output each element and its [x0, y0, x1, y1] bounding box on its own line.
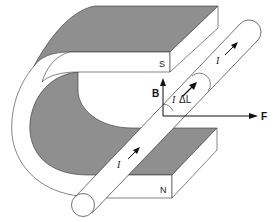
field-label: B: [152, 88, 159, 99]
segment-length-label: ΔL: [179, 94, 192, 105]
magnet-wire-diagram: I I B F I ΔL S N: [0, 0, 275, 222]
north-pole-label: N: [160, 185, 167, 195]
current-label-bottom: I: [116, 159, 121, 170]
current-label-top: I: [215, 55, 220, 66]
force-label: F: [261, 111, 267, 122]
segment-current-label: I: [171, 94, 176, 105]
south-pole-label: S: [159, 59, 165, 69]
wire-end-cap: [72, 194, 95, 217]
